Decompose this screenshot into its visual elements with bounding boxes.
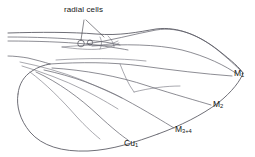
vein-label-cu1: Cu1 xyxy=(124,139,138,149)
vein-label-m1: M1 xyxy=(234,69,244,79)
vein-label-m3-4: M3+4 xyxy=(175,125,192,135)
radial-cell-upper-boundary xyxy=(62,41,118,47)
cubitus-cu1-vein xyxy=(36,72,128,140)
leader-line-radial-cell-2 xyxy=(86,20,104,37)
wing-venation-diagram xyxy=(0,0,255,157)
leader-line-radial-cell-1 xyxy=(81,20,84,40)
annotation-label-radial-cells: radial cells xyxy=(64,6,103,14)
apical-margin xyxy=(158,73,243,134)
media-m1-vein xyxy=(50,63,232,76)
costal-margin-vein xyxy=(8,28,243,73)
media-m2-vein xyxy=(52,68,211,105)
anal-vein xyxy=(30,72,100,139)
wing-base-notch xyxy=(8,56,50,64)
radius-r4-5-vein xyxy=(92,45,237,74)
anal-lobe-margin xyxy=(18,64,50,94)
m-cu-crossvein xyxy=(120,64,134,92)
vein-label-m2-subscript: 2 xyxy=(220,103,223,109)
vein-label-cu1-base: Cu xyxy=(124,138,135,148)
vein-label-m1-subscript: 1 xyxy=(241,72,244,78)
discal-cell-upper-vein xyxy=(56,59,146,61)
media-m3-4-vein xyxy=(44,70,174,128)
radial-crossvein xyxy=(100,37,102,49)
vein-label-cu1-subscript: 1 xyxy=(135,142,138,148)
vein-label-m2: M2 xyxy=(213,100,223,110)
radius-r1-vein xyxy=(8,41,128,50)
vein-label-m3-4-subscript: 3+4 xyxy=(182,128,191,134)
